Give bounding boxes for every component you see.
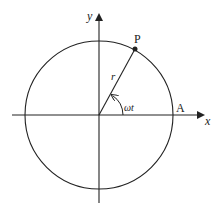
point-p-marker xyxy=(133,47,138,52)
angle-arc xyxy=(113,96,124,116)
point-a-label: A xyxy=(176,101,185,115)
point-p-label: P xyxy=(134,32,141,46)
radius-label: r xyxy=(111,70,116,82)
circular-motion-diagram: y x P A r ωt xyxy=(0,0,221,220)
angle-label: ωt xyxy=(124,102,134,113)
y-axis-label: y xyxy=(86,9,93,23)
x-axis-label: x xyxy=(204,114,211,128)
